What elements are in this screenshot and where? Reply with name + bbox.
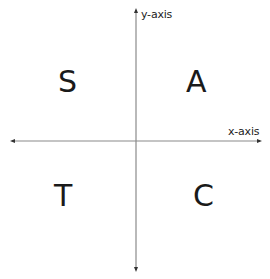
x-axis-left-arrow-icon: [10, 139, 15, 143]
quadrant-diagram: y-axis x-axis S A T C: [0, 0, 270, 279]
y-axis-down-arrow-icon: [134, 267, 138, 272]
axes-graphic: [0, 0, 270, 279]
y-axis-label: y-axis: [141, 8, 172, 21]
x-axis-right-arrow-icon: [257, 139, 262, 143]
x-axis-label: x-axis: [228, 125, 259, 138]
quadrant-top-left-letter: S: [58, 67, 77, 97]
quadrant-top-right-letter: A: [186, 67, 207, 97]
y-axis-up-arrow-icon: [134, 8, 138, 13]
quadrant-bottom-left-letter: T: [54, 181, 72, 211]
quadrant-bottom-right-letter: C: [193, 181, 214, 211]
